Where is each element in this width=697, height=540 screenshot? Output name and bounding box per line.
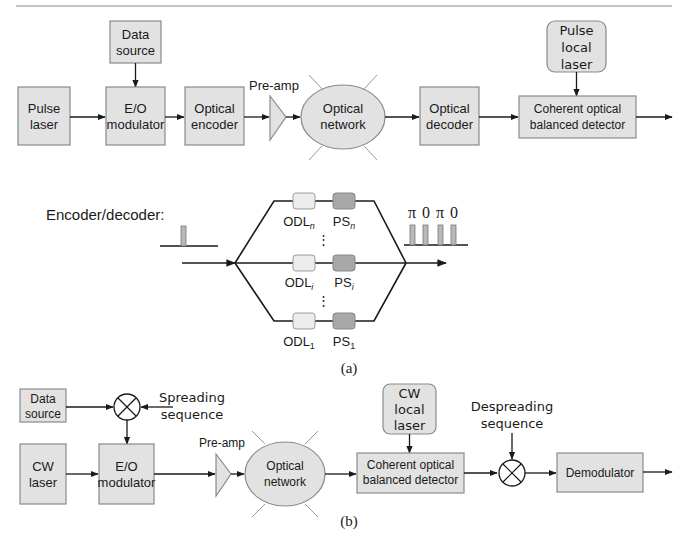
eo-modulator-block-a: E/O modulator xyxy=(106,87,165,145)
branch-1-path xyxy=(235,263,406,321)
spreading-sequence-label: Spreading xyxy=(159,390,225,405)
ps-n-label: PSn xyxy=(333,214,355,231)
ps-1-block xyxy=(333,313,355,329)
svg-text:Coherent optical: Coherent optical xyxy=(367,458,454,472)
pre-amp-label-b: Pre-amp xyxy=(199,436,245,450)
optical-network-b: Optical network xyxy=(245,431,325,517)
svg-text:decoder: decoder xyxy=(426,117,474,132)
demodulator-block: Demodulator xyxy=(557,453,643,492)
despreading-mixer xyxy=(499,460,525,486)
spreading-mixer xyxy=(114,394,140,420)
odl-n-label: ODLn xyxy=(283,214,315,231)
odl-n-block xyxy=(293,193,315,209)
svg-text:laser: laser xyxy=(394,418,426,433)
optical-encoder-block: Optical encoder xyxy=(185,87,244,145)
svg-text:Pulse: Pulse xyxy=(28,101,61,116)
svg-text:Pulse: Pulse xyxy=(559,23,593,38)
svg-text:network: network xyxy=(320,117,366,132)
svg-text:π: π xyxy=(408,204,416,221)
svg-text:laser: laser xyxy=(29,475,58,490)
coherent-detector-block-b: Coherent optical balanced detector xyxy=(357,453,464,493)
svg-text:laser: laser xyxy=(30,117,59,132)
svg-text:Optical: Optical xyxy=(266,459,303,473)
despreading-sequence-label: Despreading xyxy=(471,399,553,414)
pulse-laser-block: Pulse laser xyxy=(18,87,70,145)
svg-text:source: source xyxy=(116,43,155,58)
svg-text:source: source xyxy=(25,407,61,421)
svg-text:local: local xyxy=(394,402,424,417)
caption-b: (b) xyxy=(340,513,358,530)
svg-text:modulator: modulator xyxy=(107,117,165,132)
data-source-block-b: Data source xyxy=(20,389,66,422)
svg-text:Data: Data xyxy=(122,27,150,42)
svg-text:laser: laser xyxy=(561,57,593,72)
odl-i-block xyxy=(293,255,315,271)
panel-b-system: Data source Spreading sequence CW laser … xyxy=(20,384,672,530)
odl-1-label: ODL1 xyxy=(283,334,315,351)
svg-text:sequence: sequence xyxy=(161,407,224,422)
ps-1-label: PS1 xyxy=(333,334,355,351)
svg-text:CW: CW xyxy=(399,386,421,401)
svg-text:Coherent optical: Coherent optical xyxy=(534,102,621,116)
encoder-decoder-label: Encoder/decoder: xyxy=(46,206,164,223)
svg-text:CW: CW xyxy=(32,459,54,474)
svg-text:Optical: Optical xyxy=(323,101,364,116)
output-pulse-train: π 0 π 0 xyxy=(404,204,468,245)
svg-text:π: π xyxy=(436,204,444,221)
svg-text:0: 0 xyxy=(422,204,430,221)
ps-i-label: PSi xyxy=(334,275,354,292)
coherent-detector-block-a: Coherent optical balanced detector xyxy=(519,96,636,138)
cw-laser-block: CW laser xyxy=(20,444,66,504)
svg-text:E/O: E/O xyxy=(124,101,146,116)
panel-a-system: Data source Pulse laser E/O modulator Op… xyxy=(18,21,672,160)
svg-text:balanced detector: balanced detector xyxy=(530,118,625,132)
encoder-decoder-detail: Encoder/decoder: ODLn PSn ⋮ ODLi PSi ⋮ O… xyxy=(46,193,468,377)
svg-text:Demodulator: Demodulator xyxy=(566,466,635,480)
svg-text:Data: Data xyxy=(30,392,56,406)
svg-text:sequence: sequence xyxy=(481,416,544,431)
caption-a: (a) xyxy=(341,360,358,377)
pre-amp-label-a: Pre-amp xyxy=(249,78,299,93)
pre-amp-triangle-a xyxy=(270,96,286,140)
svg-text:network: network xyxy=(264,475,307,489)
ellipsis-lower: ⋮ xyxy=(317,293,330,308)
data-source-block-a: Data source xyxy=(110,21,161,63)
svg-text:Optical: Optical xyxy=(429,101,470,116)
svg-text:modulator: modulator xyxy=(98,475,156,490)
odl-i-label: ODLi xyxy=(285,275,315,292)
ellipsis-upper: ⋮ xyxy=(317,232,330,247)
optical-decoder-block: Optical decoder xyxy=(420,87,479,145)
pulse-local-laser-block: Pulse local laser xyxy=(547,21,606,72)
svg-text:balanced detector: balanced detector xyxy=(363,473,458,487)
eo-modulator-block-b: E/O modulator xyxy=(98,444,156,504)
ps-i-block xyxy=(333,255,355,271)
svg-text:local: local xyxy=(561,40,591,55)
svg-text:0: 0 xyxy=(450,204,458,221)
svg-text:Optical: Optical xyxy=(194,101,235,116)
system-diagram: Data source Pulse laser E/O modulator Op… xyxy=(0,0,697,540)
ps-n-block xyxy=(333,193,355,209)
cw-local-laser-block: CW local laser xyxy=(383,384,436,434)
input-pulse xyxy=(181,226,186,246)
svg-text:encoder: encoder xyxy=(191,117,239,132)
svg-text:E/O: E/O xyxy=(115,459,137,474)
optical-network-a: Optical network xyxy=(301,75,385,160)
pre-amp-triangle-b xyxy=(216,454,231,496)
odl-1-block xyxy=(293,313,315,329)
